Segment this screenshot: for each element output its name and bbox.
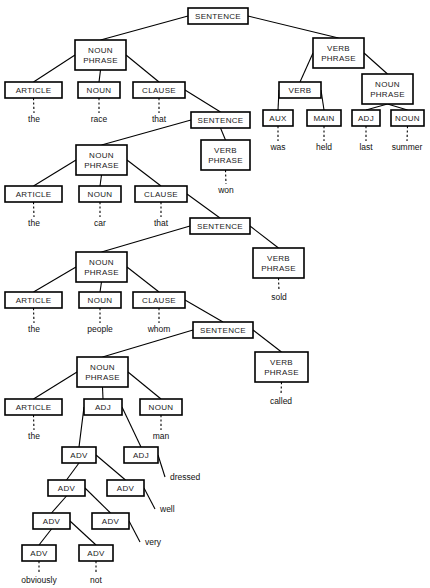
node-label: MAIN <box>313 114 334 123</box>
tree-node-article[interactable]: ARTICLE <box>5 82 62 98</box>
tree-edge <box>128 372 161 399</box>
tree-edge <box>100 175 102 186</box>
tree-node-verb-phrase[interactable]: VERBPHRASE <box>255 352 308 382</box>
terminal-connector <box>158 455 165 477</box>
terminal-word: last <box>359 142 373 152</box>
tree-node-adj[interactable]: ADJ <box>124 447 158 463</box>
tree-node-noun-phrase[interactable]: NOUNPHRASE <box>75 40 126 70</box>
node-label: ADV <box>30 549 48 558</box>
tree-edge <box>253 330 282 352</box>
tree-node-adv[interactable]: ADV <box>79 545 113 561</box>
tree-edge <box>52 496 67 513</box>
node-label: SENTENCE <box>198 116 244 125</box>
terminal-stem <box>34 202 35 217</box>
tree-node-adv[interactable]: ADV <box>48 480 85 496</box>
tree-node-adj[interactable]: ADJ <box>352 110 380 126</box>
tree-node-clause[interactable]: CLAUSE <box>133 292 185 308</box>
node-label: PHRASE <box>83 56 118 65</box>
tree-edge <box>102 226 191 252</box>
parse-tree-diagram: SENTENCENOUNPHRASEVERBPHRASEARTICLENOUNC… <box>0 0 430 588</box>
tree-node-sentence[interactable]: SENTENCE <box>193 322 253 338</box>
terminal-word: man <box>153 431 170 441</box>
tree-node-noun[interactable]: NOUN <box>78 82 120 98</box>
node-label: ARTICLE <box>16 190 52 199</box>
tree-node-article[interactable]: ARTICLE <box>5 292 62 308</box>
tree-node-verb-phrase[interactable]: VERBPHRASE <box>313 38 364 68</box>
terminal-word: the <box>28 218 40 228</box>
terminal-stem <box>226 170 227 184</box>
tree-node-clause[interactable]: CLAUSE <box>133 82 185 98</box>
node-label: NOUN <box>149 403 174 412</box>
terminal-word: called <box>270 396 292 406</box>
node-label: SENTENCE <box>197 222 243 231</box>
node-label: PHRASE <box>261 264 296 273</box>
tree-node-aux[interactable]: AUX <box>263 110 293 126</box>
tree-node-noun-phrase[interactable]: NOUNPHRASE <box>77 357 128 387</box>
terminal-stem <box>279 278 280 291</box>
node-label: ADV <box>58 484 76 493</box>
tree-node-noun-phrase[interactable]: NOUNPHRASE <box>76 252 127 282</box>
tree-node-adv[interactable]: ADV <box>22 545 56 561</box>
terminal-connector <box>129 521 140 542</box>
tree-edge <box>39 529 52 545</box>
terminal-stem <box>34 308 35 323</box>
terminal-stem <box>34 98 35 113</box>
node-box <box>362 74 413 104</box>
node-label: ADJ <box>95 403 111 412</box>
terminal-stem <box>407 126 408 141</box>
node-label: AUX <box>269 114 287 123</box>
terminal-word: that <box>154 218 169 228</box>
tree-edge <box>103 387 104 399</box>
tree-node-adv[interactable]: ADV <box>92 513 129 529</box>
tree-edge <box>34 55 76 82</box>
terminal-word: the <box>28 431 40 441</box>
tree-node-sentence[interactable]: SENTENCE <box>191 112 250 128</box>
node-label: NOUN <box>395 114 420 123</box>
node-label: ADJ <box>358 114 374 123</box>
tree-node-noun-phrase[interactable]: NOUNPHRASE <box>362 74 413 104</box>
node-label: VERB <box>267 254 290 263</box>
tree-node-clause[interactable]: CLAUSE <box>135 186 187 202</box>
node-label: CLAUSE <box>144 190 178 199</box>
tree-edge <box>127 267 159 292</box>
node-label: ADV <box>102 517 120 526</box>
node-label: PHRASE <box>85 373 120 382</box>
terminal-word: the <box>28 114 40 124</box>
tree-edge <box>96 455 126 480</box>
tree-node-sentence[interactable]: SENTENCE <box>190 218 250 234</box>
node-label: SENTENCE <box>200 326 246 335</box>
terminal-word-layer: theracethatwasheldlastsummerwonthecartha… <box>21 114 422 585</box>
tree-node-noun[interactable]: NOUN <box>140 399 182 415</box>
terminal-word: whom <box>147 324 171 334</box>
node-label: CLAUSE <box>142 86 176 95</box>
tree-node-adj[interactable]: ADJ <box>84 399 122 415</box>
tree-node-sentence[interactable]: SENTENCE <box>188 8 248 24</box>
node-box <box>75 40 126 70</box>
tree-node-adv[interactable]: ADV <box>107 480 144 496</box>
tree-node-noun[interactable]: NOUN <box>391 110 424 126</box>
terminal-connector <box>144 488 155 509</box>
terminal-word: people <box>87 324 113 334</box>
tree-node-verb[interactable]: VERB <box>279 82 321 98</box>
node-label: NOUN <box>90 363 115 372</box>
node-label: ADV <box>117 484 135 493</box>
tree-edge <box>366 104 388 110</box>
node-label: NOUN <box>375 80 400 89</box>
tree-node-article[interactable]: ARTICLE <box>5 186 62 202</box>
tree-edge <box>103 330 194 357</box>
tree-node-article[interactable]: ARTICLE <box>5 399 62 415</box>
node-box <box>253 248 304 278</box>
tree-node-noun-phrase[interactable]: NOUNPHRASE <box>76 145 127 175</box>
terminal-word: sold <box>271 292 287 302</box>
tree-node-verb-phrase[interactable]: VERBPHRASE <box>253 248 304 278</box>
tree-node-main[interactable]: MAIN <box>307 110 341 126</box>
node-label: VERB <box>270 358 293 367</box>
tree-node-noun[interactable]: NOUN <box>79 292 121 308</box>
tree-edge <box>187 194 220 218</box>
tree-node-noun[interactable]: NOUN <box>79 186 121 202</box>
tree-node-adv[interactable]: ADV <box>62 447 96 463</box>
node-label: ADV <box>43 517 61 526</box>
node-box <box>76 145 127 175</box>
tree-node-adv[interactable]: ADV <box>33 513 70 529</box>
tree-node-verb-phrase[interactable]: VERBPHRASE <box>201 140 250 170</box>
